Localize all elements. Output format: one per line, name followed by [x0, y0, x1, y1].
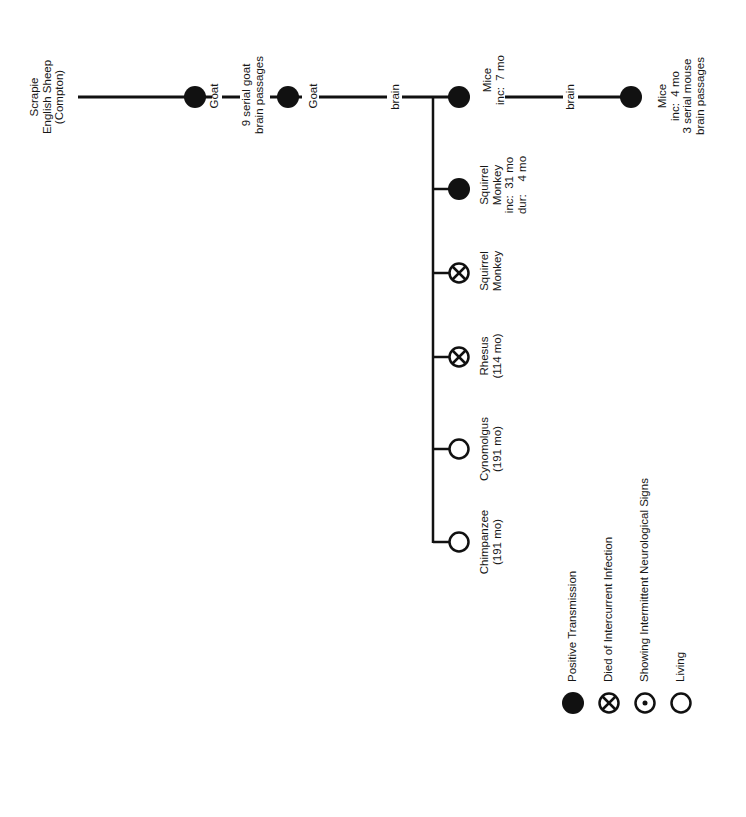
- mice-2-label: Mice inc: 4 mo 3 serial mouse brain pass…: [656, 51, 706, 141]
- mice-1-label: Mice inc: 7 mo: [481, 35, 506, 125]
- legend-died-label: Died of Intercurrent Infection: [602, 462, 615, 682]
- legend-died-of-intercurrent-infection-icon: [600, 694, 619, 713]
- living-icon: [450, 533, 469, 552]
- transmission-diagram: Scrapie English Sheep (Compton) Goat 9 s…: [0, 0, 746, 817]
- positive-transmission-icon: [277, 86, 299, 108]
- positive-transmission-icon: [448, 178, 470, 200]
- goat-passages-label: 9 serial goat brain passages: [240, 47, 265, 143]
- positive-transmission-icon: [184, 86, 206, 108]
- died-of-intercurrent-infection-icon: [450, 264, 469, 283]
- legend-positive-transmission-icon: [562, 692, 584, 714]
- legend-showing-neurological-signs-icon: [636, 694, 655, 713]
- diagram-lines: [0, 0, 746, 817]
- legend-positive-transmission-label: Positive Transmission: [566, 482, 579, 682]
- goat-2-label: Goat: [307, 74, 320, 118]
- goat-1-label: Goat: [208, 74, 221, 118]
- route-brain-2-label: brain: [564, 79, 577, 115]
- cynomolgus-label: Cynomolgus (191 mo): [478, 408, 503, 490]
- squirrel-monkey-1-label: Squirrel Monkey inc: 31 mo dur: 4 mo: [478, 135, 528, 235]
- legend-neurological-signs-label: Showing Intermittent Neurological Signs: [638, 402, 651, 682]
- positive-transmission-icon: [448, 86, 470, 108]
- chimpanzee-label: Chimpanzee (191 mo): [478, 502, 503, 582]
- route-brain-1-label: brain: [389, 79, 402, 115]
- squirrel-monkey-2-label: Squirrel Monkey: [478, 236, 503, 306]
- source-label: Scrapie English Sheep (Compton): [28, 49, 66, 145]
- rhesus-label: Rhesus (114 mo): [478, 320, 503, 392]
- died-of-intercurrent-infection-icon: [450, 348, 469, 367]
- positive-transmission-icon: [620, 86, 642, 108]
- living-icon: [450, 440, 469, 459]
- legend-living-icon: [672, 694, 691, 713]
- legend-living-label: Living: [674, 602, 687, 682]
- branch-lines: [433, 97, 449, 543]
